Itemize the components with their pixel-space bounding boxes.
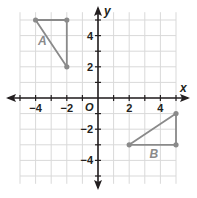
y-tick-label: 4 (87, 30, 94, 42)
triangle-b-label: B (149, 147, 158, 161)
shapes: AB (33, 17, 179, 161)
vertex-point (33, 17, 38, 22)
x-axis-label: x (179, 81, 188, 95)
origin-label: O (85, 101, 94, 113)
x-tick-label: 2 (126, 102, 132, 114)
vertex-point (127, 142, 132, 147)
y-tick-label: −2 (80, 123, 93, 135)
vertex-point (173, 142, 178, 147)
x-tick-label: −4 (29, 102, 42, 114)
y-axis-label: y (103, 4, 112, 18)
triangle-a-label: A (37, 34, 47, 48)
vertex-point (64, 17, 69, 22)
vertex-point (64, 64, 69, 69)
x-tick-label: −2 (61, 102, 74, 114)
x-tick-label: 4 (157, 102, 164, 114)
y-tick-label: 2 (87, 61, 93, 73)
axes: x y O (6, 4, 190, 190)
coordinate-plane: x y O −4−22442−2−4 AB (0, 0, 197, 198)
y-tick-label: −4 (80, 154, 93, 166)
vertex-point (173, 111, 178, 116)
